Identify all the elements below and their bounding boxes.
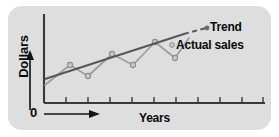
legend-actual-marker [170,43,175,48]
legend-label-trend: Trend [210,21,242,33]
series-trend [45,26,209,79]
series-actual-sales [45,38,189,85]
years-direction-arrow [44,110,100,118]
x-axis-label: Years [139,112,170,124]
chart-figure: Dollars Years 0 Trend Actual sales [0,0,279,137]
origin-label: 0 [30,106,37,119]
legend-label-actual-sales: Actual sales [176,39,244,51]
y-axis-label: Dollars [17,25,30,89]
